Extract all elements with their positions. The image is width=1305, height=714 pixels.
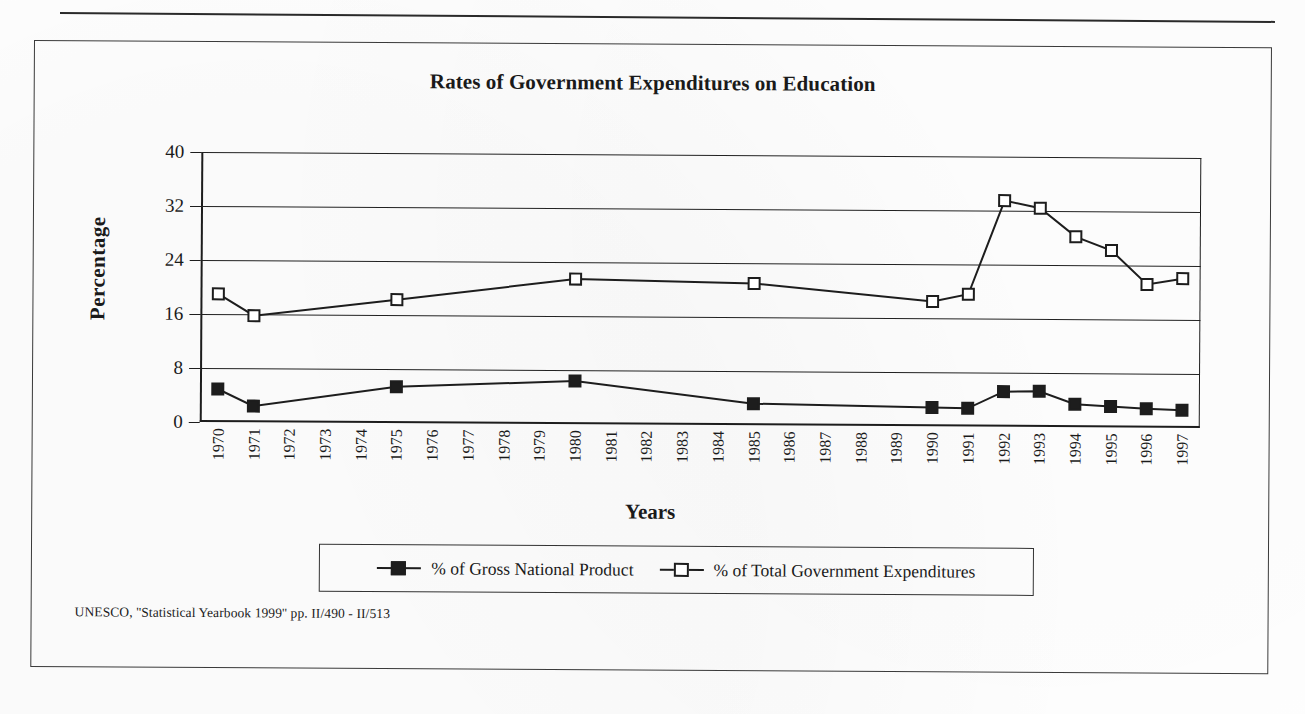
y-axis-tick xyxy=(189,314,200,315)
x-axis-tick-label: 1989 xyxy=(888,432,906,464)
legend-label-total-gov-exp: % of Total Government Expenditures xyxy=(713,560,975,583)
x-axis-tick-label: 1973 xyxy=(317,429,335,461)
y-axis-tick xyxy=(190,206,201,207)
filled-square-marker xyxy=(1105,401,1116,412)
x-axis-tick-label: 1982 xyxy=(638,431,656,463)
y-axis-title: Percentage xyxy=(85,216,111,320)
y-axis-tick-label: 16 xyxy=(164,303,183,325)
filled-square-marker xyxy=(248,401,259,412)
open-square-icon xyxy=(659,563,703,577)
x-axis-tick-label: 1995 xyxy=(1102,433,1120,465)
x-axis-tick-label: 1984 xyxy=(709,431,727,463)
x-axis-tick-label: 1988 xyxy=(852,432,870,464)
chart-legend: % of Gross National Product % of Total G… xyxy=(319,544,1034,596)
y-axis-tick-label: 24 xyxy=(165,249,184,271)
page-top-rule xyxy=(60,12,1275,23)
open-square-marker xyxy=(1106,245,1117,256)
filled-square-icon xyxy=(377,561,421,575)
y-axis-tick xyxy=(190,260,201,261)
x-axis-tick-label: 1972 xyxy=(281,428,299,460)
filled-square-marker xyxy=(1176,405,1187,416)
y-axis-tick-label: 32 xyxy=(165,195,184,217)
filled-square-marker xyxy=(212,383,223,394)
x-axis-tick-label: 1986 xyxy=(781,431,799,463)
y-axis-tick xyxy=(189,422,200,423)
chart-title: Rates of Government Expenditures on Educ… xyxy=(35,67,1271,99)
open-square-marker xyxy=(927,296,938,307)
x-axis-tick-label: 1971 xyxy=(245,428,263,460)
open-square-marker xyxy=(963,289,974,300)
figure-border: Rates of Government Expenditures on Educ… xyxy=(30,40,1272,674)
open-square-marker xyxy=(213,288,224,299)
x-axis-tick-label: 1974 xyxy=(352,429,370,461)
x-axis-tick-label: 1991 xyxy=(959,432,977,464)
x-axis-tick-label: 1983 xyxy=(674,431,692,463)
filled-square-marker xyxy=(1069,399,1080,410)
y-axis-tick xyxy=(190,152,201,153)
filled-square-marker xyxy=(1141,403,1152,414)
filled-square-marker xyxy=(1034,386,1045,397)
open-square-marker xyxy=(1070,231,1081,242)
x-axis-tick-label: 1975 xyxy=(388,429,406,461)
open-square-marker xyxy=(1035,203,1046,214)
plot-area: 0816243240 xyxy=(200,152,1202,428)
y-axis-tick-label: 8 xyxy=(173,357,183,379)
x-axis-tick-label: 1990 xyxy=(924,432,942,464)
open-square-marker xyxy=(391,294,402,305)
x-axis-tick-label: 1976 xyxy=(424,429,442,461)
x-axis-tick-label: 1979 xyxy=(531,430,549,462)
filled-square-marker xyxy=(926,402,937,413)
y-axis-tick-label: 0 xyxy=(173,411,183,433)
open-square-marker xyxy=(1141,279,1152,290)
x-axis-tick-label: 1978 xyxy=(495,430,513,462)
open-square-marker xyxy=(749,278,760,289)
y-axis-tick-label: 40 xyxy=(165,141,184,163)
x-axis-tick-label: 1970 xyxy=(209,428,227,460)
filled-square-marker xyxy=(748,398,759,409)
y-axis-tick xyxy=(189,368,200,369)
legend-item-gnp: % of Gross National Product xyxy=(377,558,633,581)
x-axis-tick-label: 1985 xyxy=(745,431,763,463)
filled-square-marker xyxy=(391,381,402,392)
open-square-marker xyxy=(1177,273,1188,284)
x-axis-tick-label: 1994 xyxy=(1066,433,1084,465)
filled-square-marker xyxy=(998,386,1009,397)
x-axis-tick-label: 1993 xyxy=(1031,433,1049,465)
source-note: UNESCO, ''Statistical Yearbook 1999'' pp… xyxy=(75,604,391,622)
series-layer xyxy=(200,152,1202,428)
open-square-marker xyxy=(999,195,1010,206)
x-axis-tick-label: 1997 xyxy=(1174,434,1192,466)
filled-square-marker xyxy=(962,403,973,414)
x-axis-tick-label: 1992 xyxy=(995,433,1013,465)
filled-square-marker xyxy=(569,375,580,386)
open-square-marker xyxy=(570,274,581,285)
x-axis-tick-label: 1977 xyxy=(459,430,477,462)
x-axis-tick-label: 1987 xyxy=(816,432,834,464)
x-axis-tick-label: 1980 xyxy=(567,430,585,462)
x-axis-tick-label: 1981 xyxy=(602,430,620,462)
legend-item-total-gov-exp: % of Total Government Expenditures xyxy=(659,559,975,582)
x-axis-tick-label: 1996 xyxy=(1138,434,1156,466)
legend-label-gnp: % of Gross National Product xyxy=(431,558,633,580)
open-square-marker xyxy=(248,310,259,321)
